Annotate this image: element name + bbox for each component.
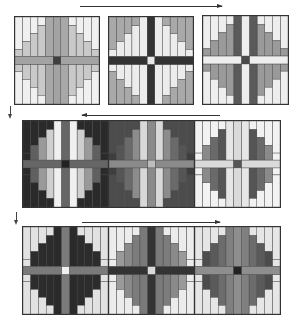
quilt-block-r2-2 <box>108 120 195 208</box>
quilt-block-r2-3 <box>194 120 281 208</box>
arrow-right-row1 <box>80 6 222 7</box>
quilt-block-r2-1 <box>22 120 109 208</box>
arrow-right-row3 <box>82 222 220 223</box>
arrow-down-1 <box>10 106 11 116</box>
quilt-block-r1-2 <box>108 16 194 105</box>
arrow-left-row2 <box>82 115 220 116</box>
quilt-block-r1-1 <box>14 16 100 105</box>
quilt-block-r1-3 <box>202 15 289 105</box>
quilt-block-r3-3 <box>194 226 281 315</box>
arrow-down-2 <box>16 212 17 222</box>
quilt-block-r3-1 <box>22 226 109 315</box>
quilt-block-r3-2 <box>108 226 195 315</box>
